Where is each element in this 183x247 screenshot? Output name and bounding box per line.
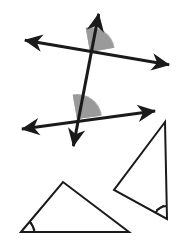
geometry-figure-canvas [0,0,183,247]
geometry-diagram [0,0,183,247]
